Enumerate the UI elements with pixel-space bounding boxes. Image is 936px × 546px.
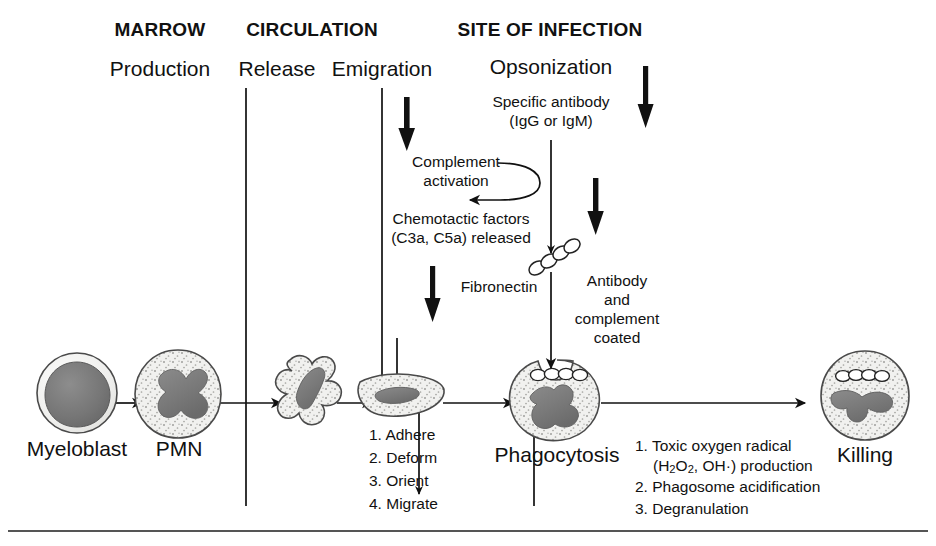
- formula-h2o2-pre: (H: [653, 457, 669, 474]
- emigration-step-3: 3. Orient: [369, 472, 428, 490]
- annotation-chemotactic-line1: Chemotactic factors: [393, 210, 530, 228]
- annotation-coated-line3: complement: [575, 310, 659, 328]
- cell-killing: [821, 351, 909, 440]
- bold-arrow-opsonization-lower: [587, 178, 603, 235]
- bold-arrow-fibronectin: [424, 266, 440, 322]
- annotation-coated-line4: coated: [594, 329, 641, 347]
- stage-label-release: Release: [238, 57, 315, 82]
- formula-h2o2-post: , OH·) production: [694, 457, 813, 474]
- annotation-chemotactic-line2: (C3a, C5a) released: [391, 229, 531, 247]
- cell-label-pmn: PMN: [156, 437, 203, 462]
- emigration-step-4: 4. Migrate: [369, 495, 438, 513]
- cell-label-killing: Killing: [837, 443, 893, 468]
- killing-step-3: 3. Degranulation: [635, 500, 749, 518]
- bacteria-chain-opsonized: [526, 236, 582, 278]
- section-heading-circulation: CIRCULATION: [246, 19, 378, 41]
- annotation-specific-antibody-line2: (IgG or IgM): [509, 112, 593, 130]
- cell-label-phagocytosis: Phagocytosis: [495, 443, 620, 468]
- annotation-fibronectin: Fibronectin: [461, 278, 538, 296]
- cell-adherent-flattened: [358, 374, 444, 416]
- stage-label-opsonization: Opsonization: [490, 55, 613, 80]
- killing-step-1-line1: 1. Toxic oxygen radical: [635, 437, 792, 455]
- cell-emigrating-amoeboid: [276, 356, 342, 425]
- annotation-coated-line2: and: [604, 291, 630, 309]
- section-heading-marrow: MARROW: [115, 19, 206, 41]
- cell-pmn: [135, 350, 221, 438]
- figure-canvas: MARROW CIRCULATION SITE OF INFECTION Pro…: [0, 0, 936, 546]
- formula-h2o2-mid: O: [676, 457, 688, 474]
- killing-step-2: 2. Phagosome acidification: [635, 478, 820, 496]
- cell-myeloblast: [37, 353, 117, 433]
- emigration-step-2: 2. Deform: [369, 449, 437, 467]
- killing-step-1-line2: (H2O2, OH·) production: [653, 457, 813, 477]
- stage-label-production: Production: [110, 57, 210, 82]
- annotation-coated-line1: Antibody: [587, 272, 647, 290]
- annotation-complement-line2: activation: [423, 172, 488, 190]
- annotation-specific-antibody-line1: Specific antibody: [492, 93, 609, 111]
- section-heading-site-of-infection: SITE OF INFECTION: [458, 19, 643, 41]
- bold-arrow-opsonization-upper: [638, 66, 654, 128]
- emigration-step-1: 1. Adhere: [369, 426, 435, 444]
- stage-label-emigration: Emigration: [332, 57, 432, 82]
- annotation-complement-line1: Complement: [412, 153, 500, 171]
- cell-label-myeloblast: Myeloblast: [27, 437, 127, 462]
- bold-arrow-emigration: [398, 97, 415, 151]
